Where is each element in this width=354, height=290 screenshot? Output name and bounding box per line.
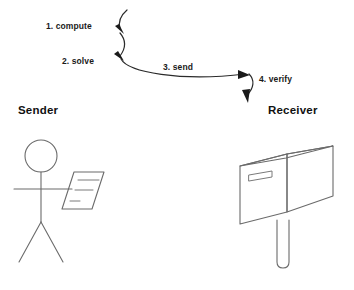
arrow-solve	[114, 33, 125, 61]
arrow-compute	[115, 10, 127, 34]
protocol-diagram: 1. compute 2. solve 3. send 4. verify Se…	[0, 0, 354, 290]
arrow-compute-head	[115, 24, 124, 34]
stick-figure-head	[25, 140, 57, 172]
mailbox-slot	[249, 171, 272, 181]
arrow-compute-curve	[119, 10, 127, 29]
step-label-solve: 2. solve	[62, 56, 94, 66]
mailbox-post	[277, 220, 289, 268]
actor-label-sender: Sender	[18, 104, 59, 116]
stick-figure-leg-left	[19, 222, 41, 262]
arrow-solve-curve	[120, 33, 125, 56]
step-label-verify: 4. verify	[259, 74, 292, 84]
arrow-verify	[242, 74, 253, 103]
step-label-send: 3. send	[163, 62, 193, 72]
stick-figure-leg-right	[41, 222, 63, 262]
receiver-mailbox	[240, 146, 333, 268]
sender-stick-figure	[14, 140, 72, 262]
arrow-send-head	[238, 70, 250, 79]
arrow-verify-head	[242, 89, 250, 103]
step-label-compute: 1. compute	[46, 21, 92, 31]
actor-label-receiver: Receiver	[268, 104, 318, 116]
sender-document	[62, 172, 104, 209]
diagram-canvas: 1. compute 2. solve 3. send 4. verify Se…	[0, 0, 354, 290]
